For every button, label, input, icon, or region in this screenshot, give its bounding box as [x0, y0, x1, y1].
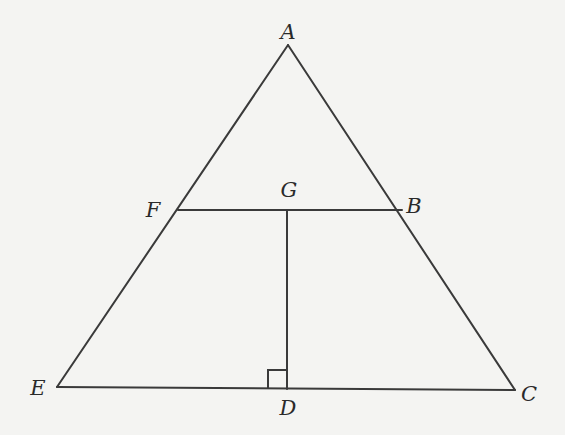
- label-point-f: F: [146, 200, 161, 221]
- label-point-a: A: [280, 22, 295, 43]
- label-point-d: D: [280, 398, 297, 419]
- geometry-diagram: A F G B E D C: [0, 0, 565, 435]
- right-angle-marker: [268, 370, 287, 389]
- segment-AC: [288, 45, 515, 390]
- label-point-e: E: [30, 378, 45, 399]
- label-point-b: B: [406, 196, 421, 217]
- label-point-g: G: [281, 180, 298, 201]
- segment-AE: [57, 45, 288, 387]
- label-point-c: C: [521, 384, 537, 405]
- triangle-figure: [0, 0, 565, 435]
